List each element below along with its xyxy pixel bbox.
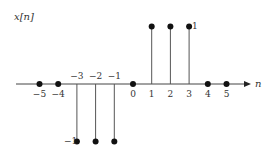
stem-plot: x[n] n −5−4−3−2−1012345 1 −1: [0, 0, 270, 155]
x-axis-title: n: [255, 78, 261, 89]
x-tick-label: −2: [89, 71, 102, 81]
x-tick-label: 4: [205, 89, 211, 99]
x-tick-label: 5: [224, 89, 230, 99]
y-tick-negative: −1: [64, 136, 77, 146]
x-axis-arrow-icon: [244, 81, 251, 87]
y-axis-title: x[n]: [14, 11, 34, 22]
x-tick-label: 1: [149, 89, 155, 99]
stem-marker: [111, 139, 117, 145]
stem-marker: [149, 24, 155, 30]
x-tick-label: −5: [33, 89, 47, 99]
x-tick-label: 0: [130, 89, 136, 99]
stem-marker: [130, 81, 136, 87]
stem-marker: [55, 81, 61, 87]
x-tick-label: 3: [186, 89, 192, 99]
x-tick-label: −4: [52, 89, 66, 99]
x-tick-label: 2: [168, 89, 174, 99]
stem-marker: [167, 24, 173, 30]
x-tick-label: −3: [70, 71, 84, 81]
y-tick-positive: 1: [192, 21, 198, 31]
stem-marker: [93, 139, 99, 145]
x-tick-label: −1: [108, 71, 121, 81]
stem-marker: [205, 81, 211, 87]
stem-marker: [224, 81, 230, 87]
stem-marker: [37, 81, 43, 87]
